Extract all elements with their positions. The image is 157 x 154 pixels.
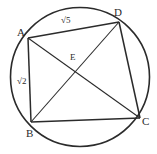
vertex-label-B: B <box>26 128 33 139</box>
vertex-label-A: A <box>17 27 25 38</box>
side-length-label-AB: √2 <box>17 77 26 86</box>
geometry-figure: A B C D E √5 √2 <box>0 0 157 154</box>
edge-AD <box>28 22 119 38</box>
side-length-label-AD: √5 <box>61 16 70 25</box>
edge-BA <box>28 38 31 122</box>
vertex-label-C: C <box>142 116 149 127</box>
vertex-label-D: D <box>114 7 122 18</box>
point-label-E: E <box>70 53 76 62</box>
edge-CB <box>31 118 140 122</box>
diagonal-BD <box>31 22 119 122</box>
